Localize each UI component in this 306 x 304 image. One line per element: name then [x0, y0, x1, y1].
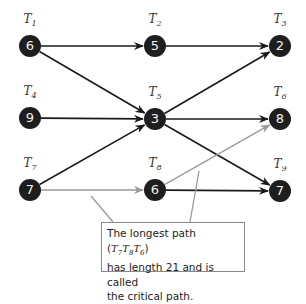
node-t1: 6: [19, 35, 41, 57]
node-label-t8: T8: [148, 156, 161, 172]
callout-line-1: The longest path (T7T8T6): [107, 226, 239, 260]
node-label-t6: T6: [273, 85, 286, 101]
edge-t1-t5: [39, 52, 144, 113]
node-label-t4: T4: [23, 84, 36, 100]
node-t7: 7: [19, 179, 41, 201]
node-t3: 2: [269, 35, 291, 57]
node-t5: 3: [144, 108, 166, 130]
edge-t8-t9: [166, 190, 268, 191]
node-label-t5: T5: [148, 85, 161, 101]
edge-t4-t5: [41, 118, 143, 119]
edge-t7-t5: [40, 125, 145, 185]
callout-line-2: has length 21 and is called: [107, 260, 239, 289]
node-t2: 5: [144, 35, 166, 57]
callout-leader-right: [190, 171, 199, 222]
node-t4: 9: [19, 107, 41, 129]
callout-line-3: the critical path.: [107, 289, 239, 304]
node-label-t3: T3: [273, 12, 286, 28]
node-t8: 6: [144, 179, 166, 201]
critical-path-callout: The longest path (T7T8T6) has length 21 …: [101, 222, 245, 272]
edge-t5-t3: [164, 52, 269, 113]
node-t6: 8: [269, 108, 291, 130]
callout-leader-left: [91, 196, 113, 222]
node-t9: 7: [269, 180, 291, 202]
node-label-t9: T9: [273, 157, 286, 173]
node-label-t2: T2: [148, 12, 161, 28]
callout-path-nodes: T7T8T6: [111, 243, 144, 254]
node-label-t1: T1: [23, 12, 36, 28]
node-label-t7: T7: [23, 156, 36, 172]
